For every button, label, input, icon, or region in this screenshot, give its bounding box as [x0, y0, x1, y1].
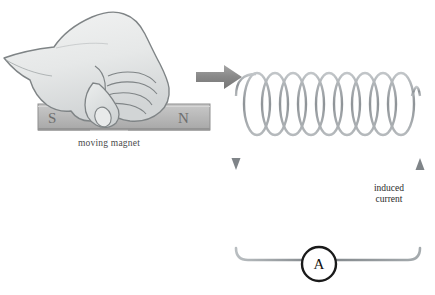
left-wire-current-arrow [232, 158, 241, 170]
induction-diagram: S N moving magnet [0, 0, 435, 295]
hand-illustration [4, 12, 169, 129]
solenoid-coil [236, 73, 420, 135]
magnet-north-pole-label: N [178, 110, 189, 127]
induced-current-line-2: current [361, 194, 417, 205]
magnet-south-pole-label: S [48, 110, 57, 127]
hand-and-magnet-drawing [0, 0, 218, 160]
right-wire-current-arrow [416, 158, 425, 170]
induced-current-line-1: induced [361, 183, 417, 194]
moving-magnet-caption: moving magnet [0, 138, 218, 148]
induced-current-label: induced current [361, 183, 417, 205]
coil-circuit: induced current A [218, 60, 435, 295]
ammeter-letter: A [306, 256, 332, 273]
hand-moving-magnet-illustration: S N moving magnet [0, 0, 218, 160]
